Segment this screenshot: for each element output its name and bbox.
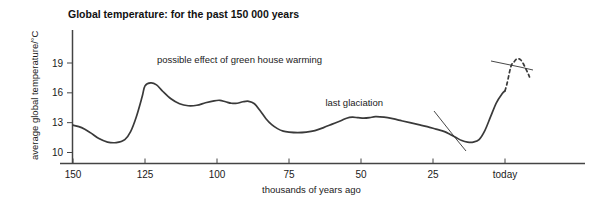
- x-tick-label: 25: [427, 169, 439, 180]
- x-tick-label: 150: [65, 169, 82, 180]
- y-tick-label: 19: [52, 58, 64, 69]
- chart-title: Global temperature: for the past 150 000…: [68, 8, 299, 20]
- x-axis-title: thousands of years ago: [262, 184, 361, 195]
- annotation-label-last-glaciation: last glaciation: [325, 97, 383, 108]
- x-tick-label: 75: [283, 169, 295, 180]
- chart-figure: Global temperature: for the past 150 000…: [0, 0, 605, 218]
- x-tick-label: 100: [209, 169, 226, 180]
- y-tick-label: 10: [52, 147, 64, 158]
- x-tick-label: 125: [137, 169, 154, 180]
- x-tick-label: today: [493, 169, 517, 180]
- y-tick-label: 13: [52, 117, 64, 128]
- y-axis-title: average global temperature/°C: [29, 30, 40, 160]
- y-tick-label: 16: [52, 87, 64, 98]
- annotation-label-greenhouse-warming: possible effect of green house warming: [157, 54, 322, 65]
- x-tick-label: 50: [355, 169, 367, 180]
- global-temperature-line-chart: Global temperature: for the past 150 000…: [0, 0, 605, 218]
